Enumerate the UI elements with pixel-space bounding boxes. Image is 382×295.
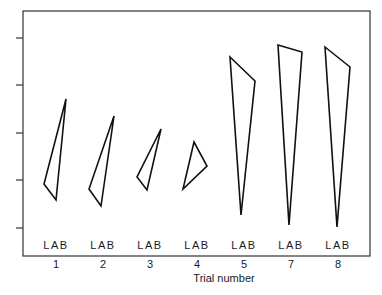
triangle-trial-3: [137, 129, 161, 190]
y-axis-ticks: [16, 38, 23, 228]
lab-label-trial-2: LAB: [90, 239, 116, 251]
lab-label-trial-7: LAB: [278, 239, 304, 251]
triangle-trial-2: [89, 116, 114, 206]
lab-label-trial-5: LAB: [231, 239, 257, 251]
triangle-trial-7: [278, 45, 302, 225]
triangle-trial-1: [44, 99, 66, 200]
triangle-chart: LABLABLABLABLABLABLAB 1234578 Trial numb…: [0, 0, 382, 295]
lab-label-trial-8: LAB: [325, 239, 351, 251]
lab-label-trial-1: LAB: [43, 239, 69, 251]
x-tick-label-8: 8: [335, 258, 341, 270]
x-tick-label-2: 2: [100, 258, 106, 270]
plot-frame: [23, 11, 370, 256]
x-tick-label-3: 3: [147, 258, 153, 270]
x-axis-title: Trial number: [193, 272, 255, 284]
x-tick-label-5: 5: [241, 258, 247, 270]
x-tick-label-7: 7: [288, 258, 294, 270]
x-tick-labels: 1234578: [53, 258, 341, 270]
triangle-series: [44, 45, 350, 227]
lab-label-trial-3: LAB: [137, 239, 163, 251]
x-tick-label-1: 1: [53, 258, 59, 270]
triangle-trial-4: [183, 142, 207, 189]
lab-vertex-labels: LABLABLABLABLABLABLAB: [43, 239, 351, 251]
triangle-trial-8: [325, 47, 350, 227]
lab-label-trial-4: LAB: [184, 239, 210, 251]
x-tick-label-4: 4: [194, 258, 200, 270]
triangle-trial-5: [230, 57, 255, 215]
